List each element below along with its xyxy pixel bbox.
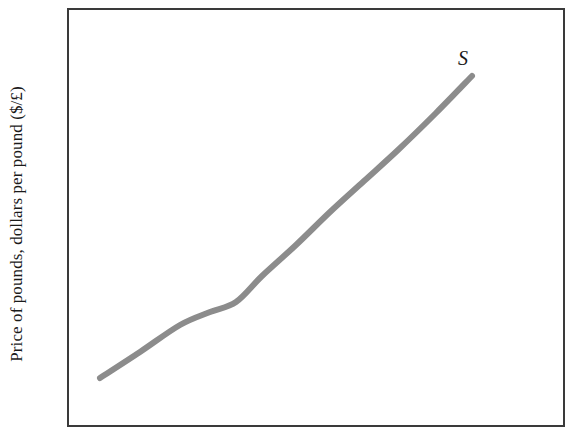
supply-curve-figure: Price of pounds, dollars per pound ($/£)… [0,0,569,448]
plot-frame [68,9,564,426]
y-axis-title: Price of pounds, dollars per pound ($/£) [0,0,34,448]
plot-area [0,0,569,448]
supply-curve-label: S [458,48,468,68]
